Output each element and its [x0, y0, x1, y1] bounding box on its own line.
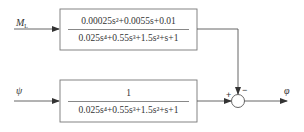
- block-g2: 1 0.025s⁴+0.55s³+1.5s²+s+1: [60, 80, 197, 122]
- input-psi-label: ψ: [16, 85, 23, 96]
- input-ml-label: ML: [15, 17, 28, 29]
- output-label: φ: [284, 85, 290, 96]
- block-g2-denominator: 0.025s⁴+0.55s³+1.5s²+s+1: [79, 105, 179, 115]
- summing-junction: + −: [226, 85, 247, 108]
- block-g1-denominator: 0.025s⁴+0.55s³+1.5s²+s+1: [79, 33, 179, 43]
- block-diagram: ML 0.00025s²+0.0055s+0.01 0.025s⁴+0.55s³…: [0, 0, 304, 132]
- input-psi: ψ: [14, 85, 59, 101]
- block-g1-numerator: 0.00025s²+0.0055s+0.01: [81, 16, 176, 26]
- output-phi: φ: [245, 85, 291, 101]
- plus-sign: +: [226, 90, 231, 100]
- g1-to-junction-line: [197, 29, 238, 94]
- minus-sign: −: [242, 85, 247, 95]
- summing-junction-circle: [232, 95, 245, 108]
- block-g2-numerator: 1: [126, 88, 131, 98]
- block-g2-box: [60, 80, 197, 122]
- input-ml: ML: [14, 17, 59, 29]
- block-g1: 0.00025s²+0.0055s+0.01 0.025s⁴+0.55s³+1.…: [60, 9, 197, 50]
